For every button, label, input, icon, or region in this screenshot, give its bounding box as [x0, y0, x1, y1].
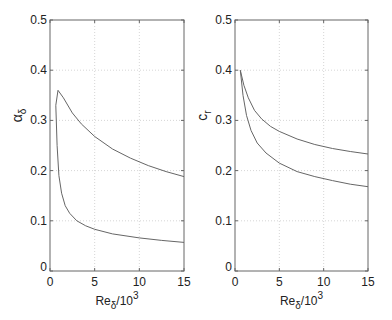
x-tick-label: 15 [361, 275, 375, 289]
y-tick-label: 0 [40, 260, 47, 274]
x-tick-label: 15 [177, 275, 191, 289]
y-axis-label: αδ [9, 108, 28, 122]
y-tick-label: 0.1 [215, 214, 232, 228]
y-tick-label: 0.2 [215, 164, 232, 178]
y-tick-label: 0.4 [30, 63, 47, 77]
y-tick-label: 0.5 [215, 13, 232, 27]
series-line-1 [240, 70, 368, 187]
y-tick-label: 0.5 [30, 13, 47, 27]
chart-figure: 05101500.10.20.30.40.5Reδ/103αδ 05101500… [0, 0, 392, 320]
y-tick-label: 0.3 [30, 113, 47, 127]
x-tick-label: 5 [276, 275, 283, 289]
y-tick-label: 0 [225, 260, 232, 274]
x-tick-label: 0 [232, 275, 239, 289]
x-axis-label: Reδ/103 [280, 290, 324, 311]
y-tick-label: 0.2 [30, 164, 47, 178]
right-plot-cr: 05101500.10.20.30.40.5Reδ/103cr [194, 13, 375, 311]
series-line-0 [56, 90, 184, 176]
y-axis-label: cr [194, 110, 213, 121]
left-plot-alpha: 05101500.10.20.30.40.5Reδ/103αδ [9, 13, 191, 311]
axes-frame [235, 20, 368, 271]
x-tick-label: 10 [317, 275, 331, 289]
y-tick-label: 0.4 [215, 63, 232, 77]
y-tick-label: 0.1 [30, 214, 47, 228]
x-axis-label: Reδ/103 [95, 290, 139, 311]
x-tick-label: 5 [91, 275, 98, 289]
x-tick-label: 0 [47, 275, 54, 289]
series-line-0 [240, 70, 368, 154]
x-tick-label: 10 [133, 275, 147, 289]
y-tick-label: 0.3 [215, 113, 232, 127]
axes-frame [50, 20, 184, 271]
series-line-1 [56, 105, 184, 242]
